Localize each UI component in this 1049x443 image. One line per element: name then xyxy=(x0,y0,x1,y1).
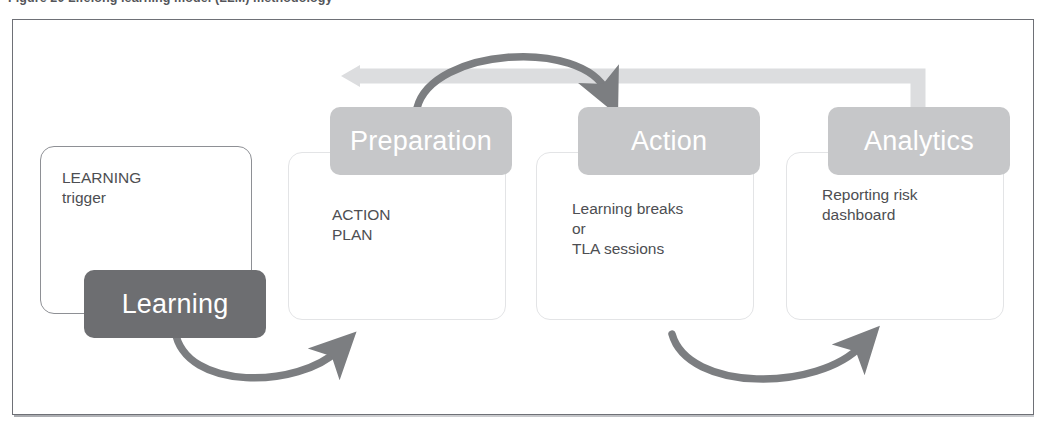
learning-badge[interactable]: Learning xyxy=(84,270,266,338)
stage-header-action[interactable]: Action xyxy=(578,107,760,175)
figure-frame-shadow xyxy=(14,415,1034,417)
stage-header-preparation[interactable]: Preparation xyxy=(330,107,512,175)
card-preparation xyxy=(288,152,506,320)
card-body-preparation: ACTION PLAN xyxy=(332,205,391,245)
card-body-learning-trigger: LEARNING trigger xyxy=(62,168,141,208)
stage-header-analytics[interactable]: Analytics xyxy=(828,107,1010,175)
card-body-action: Learning breaks or TLA sessions xyxy=(572,199,683,259)
figure-caption: Figure 20 Lifelong learning model (LLM) … xyxy=(8,0,628,7)
card-analytics xyxy=(786,152,1004,320)
card-body-analytics: Reporting risk dashboard xyxy=(822,185,918,225)
figure-canvas: Figure 20 Lifelong learning model (LLM) … xyxy=(0,0,1049,443)
